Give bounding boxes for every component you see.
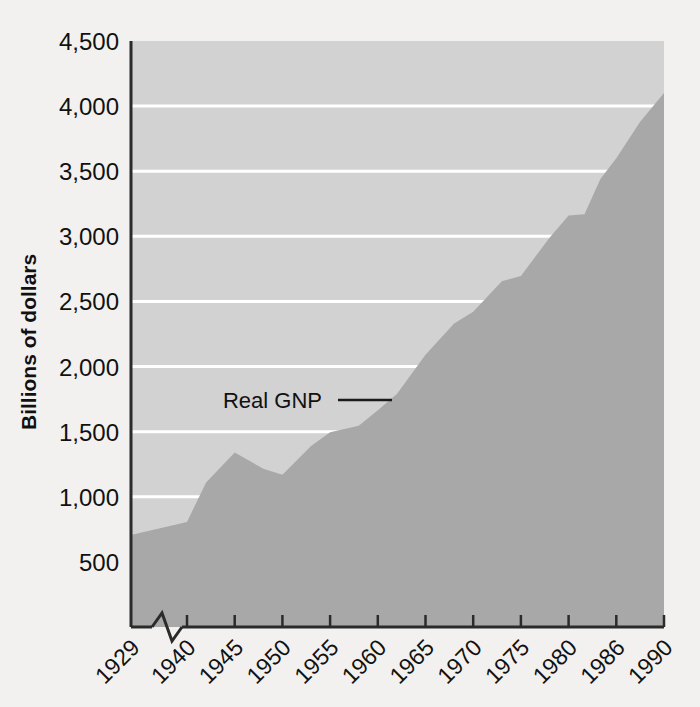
y-axis-tick-label: 4,000: [59, 93, 119, 120]
real-gnp-annotation-label: Real GNP: [223, 388, 322, 413]
y-axis-tick-label: 4,500: [59, 28, 119, 55]
y-axis-tick-label: 1,500: [59, 419, 119, 446]
chart-canvas: 5001,0001,5002,0002,5003,0003,5004,0004,…: [0, 0, 700, 707]
y-axis-tick-label: 2,500: [59, 288, 119, 315]
y-axis-title: Billions of dollars: [17, 254, 40, 430]
y-axis-tick-label: 2,000: [59, 354, 119, 381]
y-axis-tick-label: 3,500: [59, 158, 119, 185]
y-axis-tick-label: 500: [79, 549, 119, 576]
y-axis-tick-label: 1,000: [59, 484, 119, 511]
gnp-area-chart: 5001,0001,5002,0002,5003,0003,5004,0004,…: [0, 0, 700, 707]
y-axis-tick-label: 3,000: [59, 223, 119, 250]
y-axis-tick-labels: 5001,0001,5002,0002,5003,0003,5004,0004,…: [59, 28, 119, 576]
